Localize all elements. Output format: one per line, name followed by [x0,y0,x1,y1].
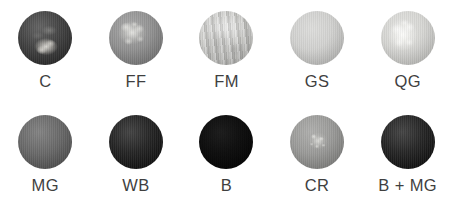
sample-feature-mg [18,115,72,169]
sample-image-qg[interactable] [381,11,435,65]
sample-image-mg[interactable] [18,115,72,169]
scanline-texture [290,11,344,65]
sample-cell-ff[interactable]: FF [91,11,182,115]
sample-feature-cr [290,115,344,169]
sample-disc-cr [290,115,344,169]
sample-image-cr[interactable] [290,115,344,169]
sample-image-b[interactable] [199,115,253,169]
sample-image-c[interactable] [18,11,72,65]
sample-image-gs[interactable] [290,11,344,65]
scanline-texture [109,11,163,65]
sample-cell-c[interactable]: C [0,11,91,115]
sample-feature-c [18,11,72,65]
scanline-texture [109,115,163,169]
sample-grid: C FF FM [0,0,453,219]
disc-vignette [109,115,163,169]
sample-label-wb: WB [122,176,149,195]
sample-cell-mg[interactable]: MG [0,115,91,219]
sample-cell-b[interactable]: B [181,115,272,219]
scanline-texture [18,115,72,169]
scanline-texture [199,11,253,65]
disc-vignette [381,115,435,169]
sample-feature-gs [290,11,344,65]
sample-label-mg: MG [32,176,59,195]
sample-image-fm[interactable] [199,11,253,65]
disc-vignette [18,115,72,169]
sample-feature-wb [109,115,163,169]
disc-vignette [199,11,253,65]
disc-vignette [290,115,344,169]
figure-root: C FF FM [0,0,453,219]
sample-label-qg: QG [394,72,420,91]
sample-disc-mg [18,115,72,169]
scanline-texture [18,11,72,65]
sample-cell-b-plus-mg[interactable]: B + MG [362,115,453,219]
sample-disc-b-plus-mg [381,115,435,169]
sample-disc-wb [109,115,163,169]
disc-vignette [381,11,435,65]
sample-label-b-plus-mg: B + MG [378,176,437,195]
sample-disc-c [18,11,72,65]
disc-vignette [199,115,253,169]
sample-disc-qg [381,11,435,65]
sample-label-c: C [39,72,51,91]
sample-cell-cr[interactable]: CR [272,115,363,219]
sample-disc-gs [290,11,344,65]
sample-cell-qg[interactable]: QG [362,11,453,115]
sample-cell-fm[interactable]: FM [181,11,272,115]
sample-label-b: B [221,176,232,195]
sample-feature-ff [109,11,163,65]
sample-label-ff: FF [125,72,146,91]
scanline-texture [381,11,435,65]
sample-disc-fm [199,11,253,65]
sample-feature-b-plus-mg [381,115,435,169]
sample-feature-fm [199,11,253,65]
disc-vignette [18,11,72,65]
scanline-texture [381,115,435,169]
scanline-texture [199,115,253,169]
sample-image-ff[interactable] [109,11,163,65]
sample-image-wb[interactable] [109,115,163,169]
sample-disc-b [199,115,253,169]
scanline-texture [290,115,344,169]
sample-cell-gs[interactable]: GS [272,11,363,115]
sample-cell-wb[interactable]: WB [91,115,182,219]
sample-feature-qg [381,11,435,65]
disc-vignette [290,11,344,65]
sample-image-b-plus-mg[interactable] [381,115,435,169]
sample-label-cr: CR [305,176,330,195]
sample-label-fm: FM [214,72,239,91]
disc-vignette [109,11,163,65]
sample-feature-b [199,115,253,169]
sample-label-gs: GS [305,72,330,91]
sample-disc-ff [109,11,163,65]
